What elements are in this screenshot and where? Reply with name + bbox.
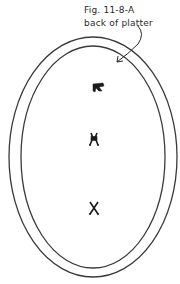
middle-mark-icon [89, 133, 99, 145]
inner-rim [21, 46, 165, 268]
outer-rim [9, 37, 177, 277]
bottom-mark-icon [89, 202, 99, 214]
top-mark-icon [93, 83, 104, 92]
platter-drawing [0, 0, 180, 284]
figure-label: Fig. 11-8-A [84, 5, 134, 15]
figure-description: back of platter [84, 18, 153, 28]
platter-figure: Fig. 11-8-A back of platter [0, 0, 180, 284]
